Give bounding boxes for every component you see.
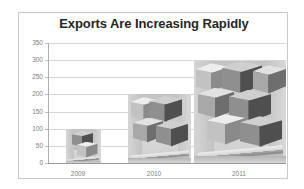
- crate-box: [156, 120, 189, 146]
- y-tick-label-50: 50: [17, 142, 43, 149]
- y-tick-mark-250: [45, 77, 48, 78]
- y-tick-mark-350: [45, 43, 48, 44]
- y-tick-label-350: 350: [17, 39, 43, 46]
- crate-box: [240, 116, 282, 147]
- x-tick-label-2009: 2009: [48, 170, 108, 178]
- chart-title: Exports Are Increasing Rapidly: [19, 16, 289, 31]
- crate-box: [77, 142, 98, 158]
- y-axis-line: [48, 43, 49, 163]
- y-tick-mark-300: [45, 60, 48, 61]
- crate-texture-2009: [66, 129, 101, 163]
- crate-texture-2011: [194, 61, 286, 163]
- x-axis-line: [48, 163, 286, 164]
- chart-frame: Exports Are Increasing Rapidly: [18, 12, 288, 179]
- y-tick-mark-50: [45, 146, 48, 147]
- x-tick-label-2010: 2010: [119, 170, 189, 178]
- y-tick-mark-200: [45, 94, 48, 95]
- y-tick-mark-100: [45, 129, 48, 130]
- x-tick-label-2011: 2011: [199, 170, 279, 178]
- y-tick-label-0: 0: [17, 159, 43, 166]
- y-tick-mark-0: [45, 163, 48, 164]
- plot-area: [48, 43, 286, 163]
- crate-texture-2010: [128, 94, 191, 163]
- y-tick-label-100: 100: [17, 125, 43, 132]
- y-tick-label-250: 250: [17, 73, 43, 80]
- bar-2009[interactable]: [66, 129, 101, 163]
- y-tick-label-200: 200: [17, 90, 43, 97]
- floor-shadow: [194, 156, 286, 163]
- bar-2011[interactable]: [194, 61, 286, 163]
- y-tick-mark-150: [45, 112, 48, 113]
- y-tick-label-300: 300: [17, 56, 43, 63]
- y-tick-label-150: 150: [17, 108, 43, 115]
- bar-2010[interactable]: [128, 94, 191, 163]
- gridline-350: [48, 43, 286, 44]
